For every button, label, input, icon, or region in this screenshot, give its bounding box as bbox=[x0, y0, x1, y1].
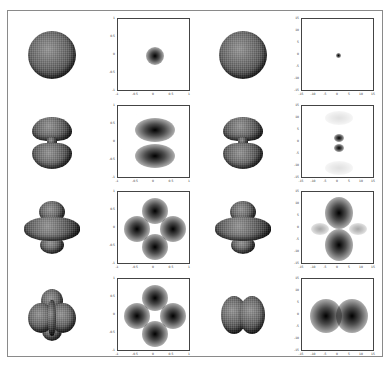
y-tick-label: -0.5 bbox=[101, 158, 115, 161]
x-tick-label: 10 bbox=[355, 93, 367, 96]
density-spot bbox=[135, 144, 175, 168]
x-tick-label: 5 bbox=[343, 353, 355, 356]
y-tick-label: 10 bbox=[285, 289, 299, 292]
y-tick-label: 0 bbox=[101, 313, 115, 316]
x-tick-label: 0.5 bbox=[165, 180, 177, 183]
x-tick-label: -10 bbox=[307, 93, 319, 96]
y-tick-label: 15 bbox=[285, 104, 299, 107]
y-tick-label: 0.5 bbox=[101, 35, 115, 38]
x-tick-label: 5 bbox=[343, 93, 355, 96]
x-tick-label: 0 bbox=[331, 93, 343, 96]
y-tick-label: 1 bbox=[101, 104, 115, 107]
x-tick-label: 0.5 bbox=[165, 353, 177, 356]
x-tick-label: -5 bbox=[319, 353, 331, 356]
y-tick-label: 10 bbox=[285, 116, 299, 119]
x-tick-label: 15 bbox=[367, 93, 379, 96]
y-tick-label: 10 bbox=[285, 202, 299, 205]
density-spot bbox=[325, 161, 353, 175]
x-tick-label: 1 bbox=[183, 266, 195, 269]
x-tick-label: 10 bbox=[355, 180, 367, 183]
y-tick-label: 0 bbox=[285, 313, 299, 316]
y-tick-label: -1 bbox=[101, 176, 115, 179]
x-tick-label: -1 bbox=[111, 353, 123, 356]
x-tick-label: -15 bbox=[295, 180, 307, 183]
density-spot bbox=[336, 299, 368, 333]
left-density-plot-row-3 bbox=[117, 191, 190, 264]
x-tick-label: -1 bbox=[111, 180, 123, 183]
y-tick-label: 1 bbox=[101, 190, 115, 193]
center-lobe-isosurface bbox=[48, 300, 56, 336]
y-tick-label: 5 bbox=[285, 214, 299, 217]
y-tick-label: 5 bbox=[285, 128, 299, 131]
density-spot bbox=[334, 144, 344, 152]
density-spot bbox=[135, 118, 175, 142]
x-tick-label: 0 bbox=[331, 180, 343, 183]
y-tick-label: 0.5 bbox=[101, 122, 115, 125]
x-tick-label: 15 bbox=[367, 180, 379, 183]
x-tick-label: 5 bbox=[343, 266, 355, 269]
x-tick-label: 0.5 bbox=[165, 266, 177, 269]
y-tick-label: -10 bbox=[285, 250, 299, 253]
y-tick-label: -10 bbox=[285, 337, 299, 340]
density-spot bbox=[311, 223, 329, 235]
x-tick-label: -10 bbox=[307, 266, 319, 269]
left-density-plot-row-1 bbox=[117, 18, 190, 91]
y-tick-label: 0 bbox=[285, 140, 299, 143]
y-tick-label: 5 bbox=[285, 41, 299, 44]
density-spot bbox=[325, 197, 353, 229]
x-tick-label: -0.5 bbox=[129, 93, 141, 96]
x-tick-label: 0 bbox=[147, 180, 159, 183]
x-tick-label: -1 bbox=[111, 93, 123, 96]
density-spot bbox=[160, 303, 186, 329]
torus-isosurface bbox=[24, 217, 80, 241]
x-tick-label: 0 bbox=[331, 353, 343, 356]
y-tick-label: -0.5 bbox=[101, 71, 115, 74]
x-tick-label: -0.5 bbox=[129, 353, 141, 356]
x-tick-label: 1 bbox=[183, 93, 195, 96]
density-spot bbox=[124, 216, 150, 242]
x-tick-label: 0 bbox=[147, 266, 159, 269]
x-tick-label: 0 bbox=[147, 353, 159, 356]
density-spot bbox=[334, 134, 344, 142]
x-tick-label: -10 bbox=[307, 353, 319, 356]
sphere-isosurface bbox=[28, 31, 76, 79]
left-density-plot-row-2 bbox=[117, 105, 190, 178]
y-tick-label: 0.5 bbox=[101, 208, 115, 211]
y-tick-label: 1 bbox=[101, 17, 115, 20]
density-spot bbox=[160, 216, 186, 242]
y-tick-label: -15 bbox=[285, 89, 299, 92]
x-tick-label: 15 bbox=[367, 266, 379, 269]
y-tick-label: 0 bbox=[285, 226, 299, 229]
y-tick-label: 0 bbox=[101, 53, 115, 56]
x-tick-label: 10 bbox=[355, 353, 367, 356]
y-tick-label: 15 bbox=[285, 190, 299, 193]
x-tick-label: 10 bbox=[355, 266, 367, 269]
x-tick-label: -5 bbox=[319, 180, 331, 183]
x-tick-label: -15 bbox=[295, 93, 307, 96]
x-tick-label: -0.5 bbox=[129, 266, 141, 269]
right-density-plot-row-2 bbox=[301, 105, 374, 178]
y-tick-label: 0 bbox=[285, 53, 299, 56]
left-density-plot-row-4 bbox=[117, 278, 190, 351]
x-tick-label: 0 bbox=[147, 93, 159, 96]
y-tick-label: -15 bbox=[285, 349, 299, 352]
right-density-plot-row-4 bbox=[301, 278, 374, 351]
right-density-plot-row-3 bbox=[301, 191, 374, 264]
torus-isosurface bbox=[215, 217, 271, 241]
y-tick-label: -5 bbox=[285, 152, 299, 155]
x-tick-label: 0.5 bbox=[165, 93, 177, 96]
y-tick-label: -1 bbox=[101, 262, 115, 265]
density-spot bbox=[325, 111, 353, 125]
y-tick-label: -10 bbox=[285, 164, 299, 167]
x-tick-label: -0.5 bbox=[129, 180, 141, 183]
y-tick-label: -1 bbox=[101, 89, 115, 92]
right-density-plot-row-1 bbox=[301, 18, 374, 91]
density-spot bbox=[336, 53, 341, 58]
x-tick-label: 15 bbox=[367, 353, 379, 356]
y-tick-label: -1 bbox=[101, 349, 115, 352]
y-tick-label: 0 bbox=[101, 226, 115, 229]
density-spot bbox=[325, 229, 353, 261]
y-tick-label: -0.5 bbox=[101, 331, 115, 334]
y-tick-label: -5 bbox=[285, 325, 299, 328]
x-tick-label: 0 bbox=[331, 266, 343, 269]
